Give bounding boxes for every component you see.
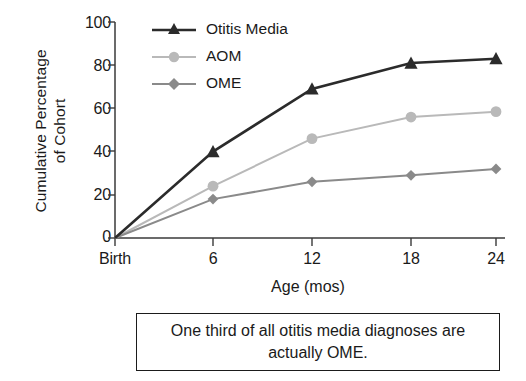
data-point-marker bbox=[206, 145, 219, 157]
data-point-marker bbox=[406, 170, 417, 181]
legend-swatch-aom bbox=[150, 44, 198, 71]
circle-marker-icon bbox=[169, 52, 179, 62]
x-axis-title: Age (mos) bbox=[115, 278, 501, 296]
x-tick-label-6: 6 bbox=[183, 250, 243, 268]
legend-item-ome: OME bbox=[150, 71, 360, 98]
legend-label-ome: OME bbox=[206, 74, 241, 92]
x-tick-label-12: 12 bbox=[282, 250, 342, 268]
line-aom bbox=[115, 112, 496, 238]
data-point-marker bbox=[491, 163, 502, 174]
data-point-marker bbox=[208, 181, 219, 192]
data-point-marker bbox=[406, 112, 417, 123]
caption-line1: One third of all otitis media diagnoses … bbox=[171, 322, 465, 339]
legend-label-otitis-media: Otitis Media bbox=[206, 20, 288, 38]
legend-item-otitis-media: Otitis Media bbox=[150, 17, 360, 44]
legend-label-aom: AOM bbox=[206, 47, 241, 65]
data-point-marker bbox=[491, 106, 502, 117]
x-tick-label-24: 24 bbox=[466, 250, 526, 268]
chart-plot-area: Cumulative Percentage of Cohort 100 80 6… bbox=[0, 0, 526, 305]
data-point-marker bbox=[307, 133, 318, 144]
figure-container: Cumulative Percentage of Cohort 100 80 6… bbox=[0, 0, 526, 381]
data-point-marker bbox=[307, 176, 318, 187]
legend-swatch-otitis-media bbox=[150, 17, 198, 44]
triangle-marker-icon bbox=[168, 23, 180, 34]
diamond-marker-icon bbox=[168, 78, 180, 90]
caption-line2: actually OME. bbox=[268, 344, 368, 361]
data-point-marker bbox=[208, 194, 219, 205]
chart-legend: Otitis Media AOM OME bbox=[150, 17, 360, 98]
legend-swatch-ome bbox=[150, 71, 198, 98]
markers-ome bbox=[208, 163, 502, 204]
caption-text: One third of all otitis media diagnoses … bbox=[137, 320, 499, 364]
legend-item-aom: AOM bbox=[150, 44, 360, 71]
x-tick-label-18: 18 bbox=[381, 250, 441, 268]
line-ome bbox=[115, 169, 496, 238]
caption-box: One third of all otitis media diagnoses … bbox=[136, 313, 500, 371]
x-tick-label-birth: Birth bbox=[75, 250, 155, 268]
series-ome bbox=[115, 163, 501, 238]
